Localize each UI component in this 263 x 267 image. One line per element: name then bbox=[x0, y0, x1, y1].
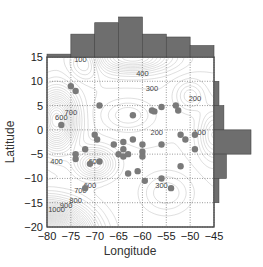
data-point bbox=[82, 185, 88, 191]
data-point bbox=[177, 132, 183, 138]
data-point bbox=[139, 141, 145, 147]
contour-label: 1000 bbox=[48, 205, 65, 214]
x-tick-label: −60 bbox=[133, 230, 152, 242]
histogram-bar bbox=[214, 106, 224, 130]
y-axis-label: Latitude bbox=[3, 120, 17, 163]
x-tick-label: −50 bbox=[181, 230, 200, 242]
data-point bbox=[130, 136, 136, 142]
data-point bbox=[96, 158, 102, 164]
data-point bbox=[182, 136, 188, 142]
y-axis-ticks: 151050−5−10−15−20 bbox=[24, 51, 43, 233]
data-point bbox=[151, 108, 157, 114]
x-tick-label: −45 bbox=[205, 230, 224, 242]
contour-label: 300 bbox=[146, 84, 159, 93]
histogram-bar bbox=[214, 154, 226, 178]
histogram-bar bbox=[119, 17, 143, 57]
contour-label: 400 bbox=[50, 157, 63, 166]
histogram-bar bbox=[166, 37, 190, 57]
x-axis-label: Longitude bbox=[104, 244, 157, 258]
right-marginal-histogram bbox=[214, 81, 251, 202]
histogram-bar bbox=[71, 34, 95, 57]
data-point bbox=[134, 168, 140, 174]
data-point bbox=[177, 163, 183, 169]
data-point bbox=[68, 83, 74, 89]
data-point bbox=[158, 104, 164, 110]
data-point bbox=[158, 141, 164, 147]
data-point bbox=[82, 146, 88, 152]
data-point bbox=[58, 122, 64, 128]
contour-label: 700 bbox=[65, 108, 78, 117]
histogram-bar bbox=[47, 54, 71, 57]
contour-label: 200 bbox=[189, 94, 202, 103]
data-point bbox=[139, 153, 145, 159]
data-point bbox=[168, 185, 174, 191]
x-tick-label: −75 bbox=[62, 230, 81, 242]
y-tick-label: −10 bbox=[24, 172, 43, 184]
contour-label: 200 bbox=[150, 128, 163, 137]
histogram-bar bbox=[214, 130, 251, 154]
histogram-bar bbox=[95, 23, 119, 57]
y-tick-label: 0 bbox=[37, 124, 43, 136]
histogram-bar bbox=[142, 34, 166, 57]
data-point bbox=[125, 151, 131, 157]
data-point bbox=[111, 141, 117, 147]
data-point bbox=[120, 139, 126, 145]
histogram-bar bbox=[214, 178, 219, 202]
histogram-bar bbox=[190, 46, 214, 57]
x-axis-ticks: −80−75−70−65−60−55−50−45 bbox=[38, 230, 224, 242]
data-point bbox=[87, 161, 93, 167]
data-point bbox=[158, 175, 164, 181]
y-tick-label: −15 bbox=[24, 197, 43, 209]
data-point bbox=[72, 88, 78, 94]
data-point bbox=[130, 112, 136, 118]
data-point bbox=[173, 102, 179, 108]
contour-label: 300 bbox=[155, 181, 168, 190]
x-tick-label: −70 bbox=[85, 230, 104, 242]
contour-scatter-chart: 1005004003002006007002001004006003006007… bbox=[0, 0, 263, 267]
y-tick-label: −5 bbox=[30, 148, 43, 160]
data-point bbox=[142, 178, 148, 184]
top-marginal-histogram bbox=[47, 17, 214, 57]
data-point bbox=[125, 170, 131, 176]
data-point bbox=[120, 146, 126, 152]
histogram-bar bbox=[214, 81, 219, 105]
y-tick-label: 5 bbox=[37, 100, 43, 112]
y-tick-label: 15 bbox=[31, 51, 43, 63]
x-tick-label: −55 bbox=[157, 230, 176, 242]
data-point bbox=[192, 132, 198, 138]
data-point bbox=[192, 146, 198, 152]
data-point bbox=[72, 156, 78, 162]
data-point bbox=[94, 136, 100, 142]
data-point bbox=[96, 102, 102, 108]
contour-label: 400 bbox=[136, 69, 149, 78]
x-tick-label: −65 bbox=[109, 230, 128, 242]
y-tick-label: 10 bbox=[31, 75, 43, 87]
y-tick-label: −20 bbox=[24, 221, 43, 233]
